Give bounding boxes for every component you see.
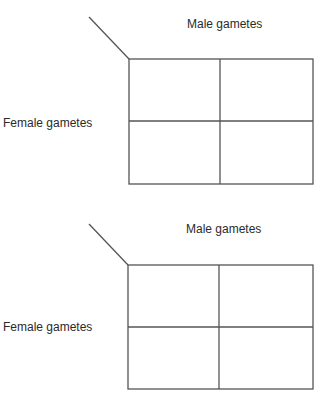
male-gametes-label: Male gametes: [186, 222, 261, 236]
male-gametes-label: Male gametes: [187, 17, 262, 31]
punnett-square-1: [89, 17, 313, 184]
female-gametes-label: Female gametes: [3, 116, 92, 130]
corner-diagonal-line: [89, 224, 128, 265]
corner-diagonal-line: [89, 17, 129, 59]
diagram-lines: [0, 0, 321, 406]
punnett-square-2: [89, 224, 313, 389]
female-gametes-label: Female gametes: [3, 320, 92, 334]
